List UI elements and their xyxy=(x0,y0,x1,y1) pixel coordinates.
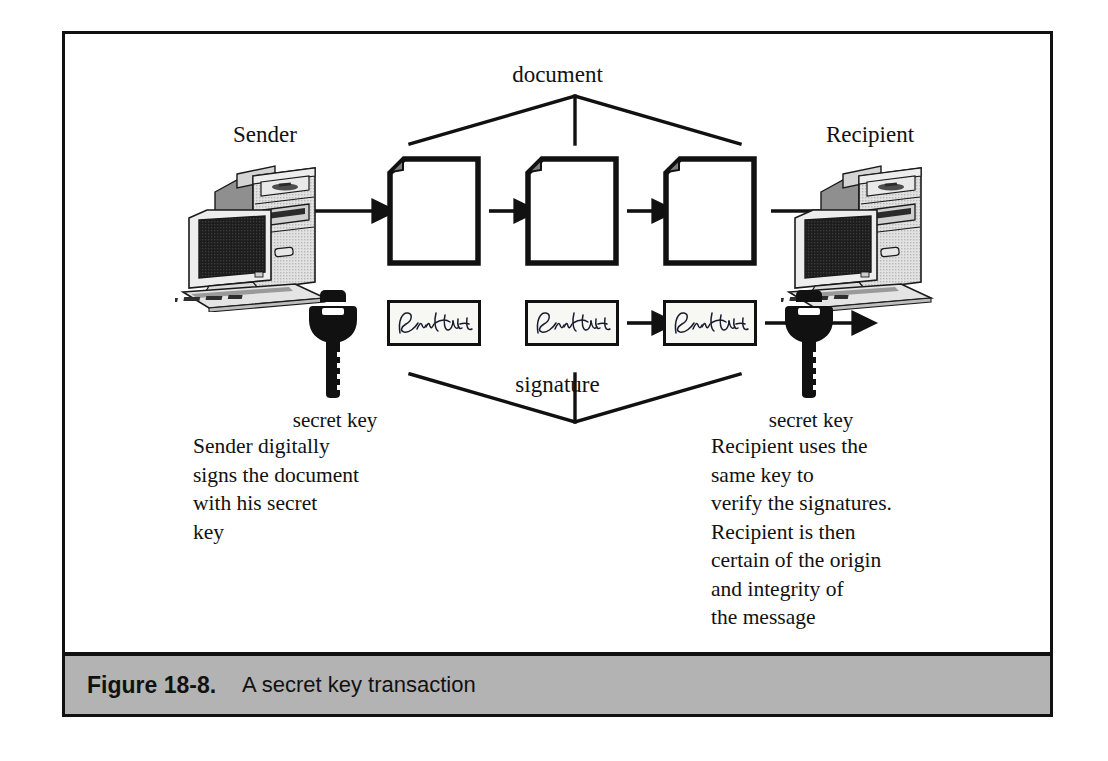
figure-caption-bar: Figure 18-8. A secret key transaction xyxy=(65,652,1050,714)
signature-box xyxy=(387,300,481,346)
recipient-description-line: and integrity of xyxy=(711,575,1041,604)
document-page-icon xyxy=(387,156,481,266)
diagram-canvas: document signature Sender Recipient secr… xyxy=(65,34,1050,649)
figure-number: Figure 18-8. xyxy=(87,672,216,699)
sender-description-line: key xyxy=(193,518,493,547)
sender-description-line: with his secret xyxy=(193,489,493,518)
recipient-description-line: the message xyxy=(711,603,1041,632)
recipient-description: Recipient uses the same key to verify th… xyxy=(711,432,1041,632)
signature-label: signature xyxy=(65,372,1050,398)
recipient-description-line: Recipient is then xyxy=(711,518,1041,547)
recipient-description-line: same key to xyxy=(711,461,1041,490)
document-label: document xyxy=(65,62,1050,88)
recipient-description-line: certain of the origin xyxy=(711,546,1041,575)
document-page-icon xyxy=(525,156,619,266)
handwritten-signature-icon xyxy=(666,303,754,343)
handwritten-signature-icon xyxy=(390,303,478,343)
figure-caption-text: A secret key transaction xyxy=(242,672,476,698)
document-bracket xyxy=(410,96,740,144)
recipient-key-icon xyxy=(781,284,837,404)
handwritten-signature-icon xyxy=(528,303,616,343)
signature-box xyxy=(525,300,619,346)
sender-key-icon xyxy=(305,284,361,404)
recipient-label: Recipient xyxy=(775,122,965,148)
sender-description-line: Sender digitally xyxy=(193,432,493,461)
recipient-secret-key-label: secret key xyxy=(731,408,891,433)
sender-description: Sender digitally signs the document with… xyxy=(193,432,493,546)
sender-description-line: signs the document xyxy=(193,461,493,490)
document-page-icon xyxy=(663,156,757,266)
sender-secret-key-label: secret key xyxy=(255,408,415,433)
recipient-description-line: Recipient uses the xyxy=(711,432,1041,461)
sender-label: Sender xyxy=(175,122,355,148)
signature-box xyxy=(663,300,757,346)
figure-frame: document signature Sender Recipient secr… xyxy=(62,31,1053,717)
recipient-description-line: verify the signatures. xyxy=(711,489,1041,518)
